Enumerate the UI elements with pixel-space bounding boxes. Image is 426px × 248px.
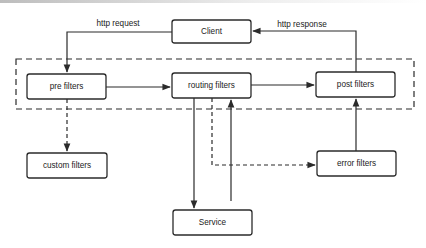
node-post-filters: post filters — [316, 72, 395, 97]
node-post-filters-label: post filters — [337, 80, 374, 89]
node-error-filters-label: error filters — [337, 159, 376, 168]
edge-routing-to-error — [212, 98, 315, 165]
http-request-label: http request — [96, 19, 140, 28]
node-service: Service — [173, 210, 252, 235]
node-custom-filters: custom filters — [27, 153, 107, 178]
node-routing-filters: routing filters — [172, 73, 251, 98]
node-error-filters: error filters — [317, 151, 396, 176]
node-routing-filters-label: routing filters — [188, 81, 235, 90]
node-pre-filters: pre filters — [27, 74, 106, 99]
filter-flow-diagram: http request http response Client pre fi… — [0, 0, 426, 248]
edge-post-to-client — [253, 31, 356, 72]
node-client-label: Client — [201, 27, 223, 36]
node-pre-filters-label: pre filters — [50, 82, 84, 91]
edge-client-to-pre — [67, 32, 172, 72]
node-service-label: Service — [199, 218, 227, 227]
node-client: Client — [172, 20, 251, 43]
http-response-label: http response — [277, 20, 327, 29]
node-custom-filters-label: custom filters — [43, 161, 91, 170]
